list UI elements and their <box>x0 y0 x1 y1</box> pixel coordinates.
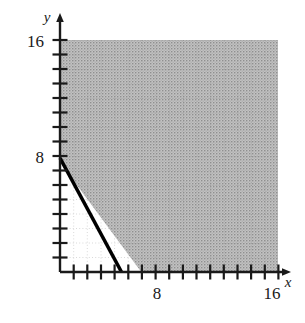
feasible-region <box>59 40 278 273</box>
x-tick-label-8: 8 <box>153 284 162 303</box>
y-tick-label-8: 8 <box>36 148 45 167</box>
x-axis-label: x <box>284 274 292 290</box>
y-tick-label-16: 16 <box>27 32 44 51</box>
x-tick-label-16: 16 <box>264 284 281 303</box>
inequality-graph: 8 16 8 16 y x <box>0 0 305 323</box>
y-axis-label: y <box>42 9 51 25</box>
